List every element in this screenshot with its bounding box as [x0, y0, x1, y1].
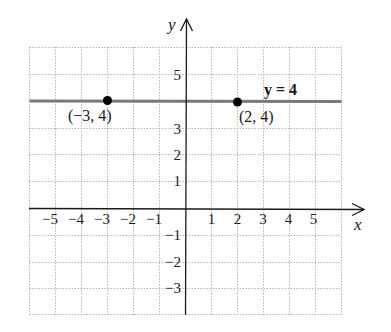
y-axis: [186, 19, 187, 315]
coordinate-plane-figure: y x y = 4 (−3, 4) (2, 4) −5 −4 −3 −2 −1 …: [0, 0, 391, 332]
axes: [29, 19, 364, 315]
equation-label: y = 4: [264, 81, 297, 99]
y-axis-label: y: [166, 15, 176, 34]
point-2-4: [233, 98, 242, 107]
point-neg3-4: [103, 96, 112, 105]
y-tick-n2: −2: [165, 254, 181, 270]
point-label-2-4: (2, 4): [239, 108, 274, 126]
y-tick-p1: 1: [174, 173, 182, 189]
x-tick-p2: 2: [234, 211, 242, 227]
x-axis-label: x: [353, 215, 362, 234]
x-tick-labels: −5 −4 −3 −2 −1 1 2 3 4 5: [42, 211, 317, 227]
x-tick-n2: −2: [120, 211, 136, 227]
x-tick-n1: −1: [146, 211, 162, 227]
point-label-neg3-4: (−3, 4): [68, 107, 112, 125]
y-tick-p2: 2: [174, 147, 182, 163]
y-tick-n3: −3: [165, 280, 181, 296]
x-tick-p1: 1: [208, 211, 216, 227]
x-axis: [29, 209, 364, 210]
line-y-equals-4: [30, 101, 342, 102]
x-tick-p4: 4: [285, 211, 293, 227]
x-tick-n3: −3: [94, 211, 110, 227]
x-tick-n5: −5: [42, 211, 58, 227]
y-tick-p3: 3: [174, 121, 182, 137]
y-tick-p5: 5: [174, 67, 182, 83]
x-tick-p3: 3: [259, 211, 267, 227]
y-tick-n1: −1: [165, 227, 181, 243]
x-tick-n4: −4: [68, 211, 84, 227]
x-tick-p5: 5: [310, 211, 318, 227]
